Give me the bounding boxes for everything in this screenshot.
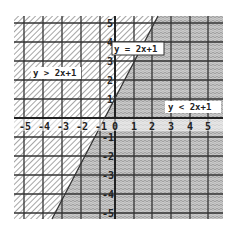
svg-text:y > 2x+1: y > 2x+1	[33, 68, 76, 78]
x-tick-labels: -5 -4 -3 -2 -1 0 1 2 3 4 5	[14, 119, 223, 132]
svg-text:-5: -5	[102, 208, 114, 219]
svg-text:-2: -2	[102, 151, 114, 162]
svg-text:5: 5	[107, 18, 113, 29]
label-above: y > 2x+1	[31, 67, 81, 79]
svg-text:1: 1	[131, 121, 137, 132]
svg-text:-4: -4	[38, 121, 50, 132]
svg-text:y < 2x+1: y < 2x+1	[168, 102, 211, 112]
label-below: y < 2x+1	[165, 101, 221, 113]
svg-text:2: 2	[149, 121, 155, 132]
label-line: y = 2x+1	[112, 42, 164, 55]
svg-text:2: 2	[107, 75, 113, 86]
svg-text:4: 4	[187, 121, 193, 132]
inequality-graph: -5 -4 -3 -2 -1 0 1 2 3 4 5 5 4 3 2 1 -1 …	[0, 0, 237, 237]
svg-text:3: 3	[107, 56, 113, 67]
svg-text:3: 3	[168, 121, 174, 132]
svg-text:-2: -2	[76, 121, 88, 132]
svg-text:-4: -4	[102, 189, 114, 200]
svg-text:-1: -1	[95, 121, 107, 132]
svg-text:y = 2x+1: y = 2x+1	[114, 44, 157, 54]
svg-text:1: 1	[107, 94, 113, 105]
svg-text:0: 0	[112, 121, 118, 132]
svg-text:5: 5	[205, 121, 211, 132]
svg-text:-1: -1	[102, 132, 114, 143]
svg-text:-5: -5	[19, 121, 31, 132]
svg-text:-3: -3	[57, 121, 69, 132]
svg-text:-3: -3	[102, 170, 114, 181]
